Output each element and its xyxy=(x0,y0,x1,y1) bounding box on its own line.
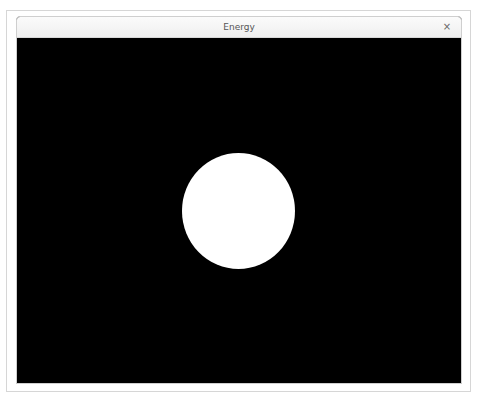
window-title: Energy xyxy=(17,21,461,33)
drawing-canvas[interactable] xyxy=(17,38,461,383)
close-button[interactable]: × xyxy=(441,21,453,33)
title-bar[interactable]: Energy × xyxy=(17,17,461,38)
app-window: Energy × xyxy=(16,16,462,384)
white-circle xyxy=(182,153,295,269)
close-icon: × xyxy=(443,21,451,32)
